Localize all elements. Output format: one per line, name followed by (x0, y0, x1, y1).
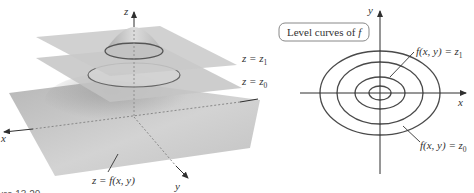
curve-z1-leader (390, 52, 414, 77)
level-x-axis-label: x (457, 96, 463, 108)
surface-view: z x y z = z1 z = z0 z = f(x, y) ure 13.2… (0, 5, 268, 193)
plane-z1-label: z = z1 (241, 52, 268, 67)
surface-label: z = f(x, y) (91, 174, 135, 187)
level-y-axis-label: y (367, 4, 373, 16)
y-axis-label: y (174, 180, 180, 192)
x-axis-label: x (0, 132, 6, 144)
figure-caption: ure 13.20 (0, 189, 41, 193)
curve-z0-label: f(x, y) = z0 (420, 139, 467, 154)
y-axis (176, 166, 188, 178)
z-axis-label: z (123, 5, 129, 17)
plane-z0-label: z = z0 (241, 75, 268, 90)
figure-canvas: z x y z = z1 z = z0 z = f(x, y) ure 13.2… (0, 0, 474, 193)
level-curve-view: Level curves of f x y f(x, y) = z1 f(x, … (279, 4, 467, 174)
figure-level-curves: z x y z = z1 z = z0 z = f(x, y) ure 13.2… (0, 0, 474, 193)
x-axis (4, 129, 33, 132)
level-curves-title: Level curves of f (287, 26, 363, 38)
curve-z1-label: f(x, y) = z1 (416, 45, 463, 60)
